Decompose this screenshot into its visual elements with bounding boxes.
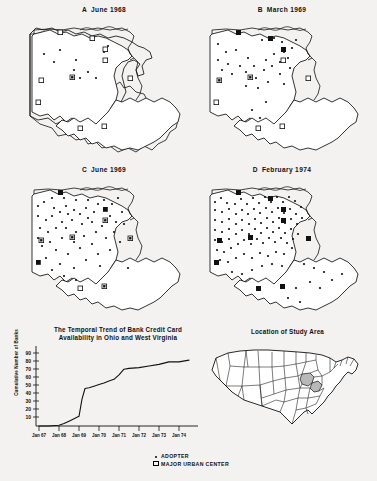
svg-text:60: 60 (25, 374, 31, 380)
ohio-wv-map-a (18, 16, 190, 156)
panel-c-title: CJune 1969 (18, 166, 190, 173)
figure-root: AJune 1968 (0, 0, 377, 481)
map-legend: ADOPTER MAJOR URBAN CENTER (152, 452, 229, 468)
panel-d-date: February 1974 (262, 166, 311, 173)
chart-x-tick-labels: Jan 67 Jan 68 Jan 69 Jan 70 Jan 71 Jan 7… (32, 433, 187, 438)
map-panel-c: CJune 1969 (18, 166, 190, 316)
panel-b-letter: B (258, 6, 263, 13)
panel-d-title: DFebruary 1974 (196, 166, 368, 173)
ohio-wv-map-d (196, 176, 368, 316)
chart-title: The Temporal Trend of Bank Credit Card A… (34, 326, 202, 343)
panel-c-date: June 1969 (91, 166, 126, 173)
us-map (206, 340, 370, 432)
urban-centers-c (78, 286, 83, 291)
ohio-wv-map-b (196, 16, 368, 156)
svg-text:Jan 72: Jan 72 (132, 433, 147, 438)
location-inset: Location of Study Area (200, 326, 375, 436)
panel-a-title: AJune 1968 (18, 6, 190, 13)
svg-text:Jan 71: Jan 71 (112, 433, 127, 438)
panel-b-title: BMarch 1969 (196, 6, 368, 13)
svg-text:20: 20 (25, 406, 31, 412)
urban-square-icon (152, 461, 160, 467)
svg-text:30: 30 (25, 398, 31, 404)
map-panel-d: DFebruary 1974 (196, 166, 368, 316)
temporal-trend-chart: The Temporal Trend of Bank Credit Card A… (6, 326, 202, 442)
svg-text:50: 50 (25, 382, 31, 388)
panel-a-letter: A (82, 6, 87, 13)
adopter-dot-icon (152, 453, 160, 459)
svg-text:Jan 74: Jan 74 (172, 433, 187, 438)
chart-line-series (39, 360, 189, 426)
legend-urban-label: MAJOR URBAN CENTER (161, 461, 229, 467)
inset-title: Location of Study Area (200, 328, 375, 335)
chart-plot-area: 90 80 70 60 50 40 30 20 10 (6, 342, 202, 442)
panel-b-date: March 1969 (267, 6, 306, 13)
svg-text:10: 10 (25, 414, 31, 420)
svg-text:40: 40 (25, 390, 31, 396)
panel-c-letter: C (82, 166, 87, 173)
chart-title-line1: The Temporal Trend of Bank Credit Card (34, 326, 202, 334)
svg-text:Jan 73: Jan 73 (152, 433, 167, 438)
map-panel-b: BMarch 1969 (196, 6, 368, 156)
ohio-wv-map-c (18, 176, 190, 316)
svg-text:80: 80 (25, 358, 31, 364)
legend-row-adopter: ADOPTER (152, 452, 229, 460)
svg-text:Jan 69: Jan 69 (72, 433, 87, 438)
svg-text:Jan 68: Jan 68 (52, 433, 67, 438)
urban-adopter-a (70, 75, 75, 80)
svg-text:Jan 70: Jan 70 (92, 433, 107, 438)
legend-adopter-label: ADOPTER (161, 453, 189, 459)
svg-text:Jan 67: Jan 67 (32, 433, 47, 438)
svg-text:90: 90 (25, 350, 31, 356)
panel-a-date: June 1968 (91, 6, 126, 13)
svg-text:70: 70 (25, 366, 31, 372)
legend-row-urban: MAJOR URBAN CENTER (152, 460, 229, 468)
map-panel-a: AJune 1968 (18, 6, 190, 156)
panel-d-letter: D (253, 166, 258, 173)
